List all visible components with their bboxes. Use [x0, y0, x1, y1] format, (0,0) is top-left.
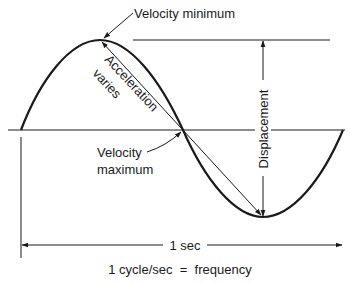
velocity-minimum-leader — [104, 13, 133, 38]
velocity-maximum-label-line2: maximum — [97, 162, 153, 177]
velocity-maximum-label: Velocity — [97, 145, 142, 160]
velocity-maximum-leader — [147, 132, 181, 152]
velocity-minimum-label: Velocity minimum — [134, 6, 235, 21]
diagram-canvas: Displacement Acceleration varies Velocit… — [0, 0, 350, 284]
frequency-caption: 1 cycle/sec = frequency — [108, 262, 252, 277]
vibration-diagram: Displacement Acceleration varies Velocit… — [0, 0, 350, 284]
period-label: 1 sec — [169, 238, 201, 253]
displacement-label: Displacement — [256, 89, 271, 168]
